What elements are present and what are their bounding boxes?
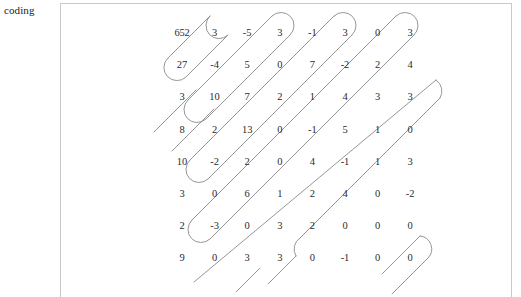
grid-cell-value: 0 xyxy=(277,157,282,168)
grid-cell-value: 0 xyxy=(212,189,217,200)
grid-cell-value: -5 xyxy=(243,28,252,39)
grid-cell-value: 0 xyxy=(277,60,282,71)
grid-cell-value: 0 xyxy=(375,28,380,39)
grid-cell-value: 0 xyxy=(375,221,380,232)
grid-cell-value: 0 xyxy=(212,253,217,264)
screenshot-stage: coding xyxy=(0,0,521,297)
grid-cell-value: 4 xyxy=(310,157,315,168)
grid-cell-value: 3 xyxy=(277,221,282,232)
grid-cell-value: 0 xyxy=(375,253,380,264)
grid-cell-value: 1 xyxy=(310,92,315,103)
grid-cell-value: 5 xyxy=(342,124,347,135)
grid-cell-value: 2 xyxy=(245,157,250,168)
grid-cell-value: 2 xyxy=(277,92,282,103)
grid-cell-value: 0 xyxy=(310,253,315,264)
grid-cell-value: 3 xyxy=(245,253,250,264)
grid-cell-value: 3 xyxy=(277,253,282,264)
grid-cell-value: 3 xyxy=(277,28,282,39)
grid-cell-value: 2 xyxy=(179,221,184,232)
grid-cell-value: 2 xyxy=(310,189,315,200)
grid-cell-value: 3 xyxy=(408,92,413,103)
grid-cell-value: 0 xyxy=(408,124,413,135)
grid-cell-value: 1 xyxy=(277,189,282,200)
grid-cell-value: -1 xyxy=(308,28,317,39)
grid-cell-value: 3 xyxy=(375,92,380,103)
grid-cell-value: 1 xyxy=(375,157,380,168)
grid-cell-value: 0 xyxy=(342,221,347,232)
grid-cell-value: 3 xyxy=(179,92,184,103)
grid-cell-value: 10 xyxy=(209,92,220,103)
grid-cell-value: 8 xyxy=(179,124,184,135)
grid-cell-value: 0 xyxy=(408,221,413,232)
grid-cell-value: 3 xyxy=(179,189,184,200)
grid-cell-value: -2 xyxy=(406,189,415,200)
grid-cell-value: 5 xyxy=(245,60,250,71)
grid-cell-value: -2 xyxy=(210,157,219,168)
grid-cell-value: 2 xyxy=(310,221,315,232)
grid-cell-value: 9 xyxy=(179,253,184,264)
grid-cell-value: 6 xyxy=(245,189,250,200)
grid-cell-value: -1 xyxy=(341,253,350,264)
coding-label: coding xyxy=(4,4,35,16)
grid-cell-value: -3 xyxy=(210,221,219,232)
grid-cell-value: 4 xyxy=(342,189,347,200)
grid-cell-value: 2 xyxy=(375,60,380,71)
grid-cell-value: 4 xyxy=(342,92,347,103)
grid-cell-value: 652 xyxy=(174,28,189,39)
grid-cell-value: 0 xyxy=(277,124,282,135)
grid-cell-value: 3 xyxy=(212,28,217,39)
grid-cell-value: 3 xyxy=(408,157,413,168)
grid-cell-value: 7 xyxy=(245,92,250,103)
grid-cell-value: -4 xyxy=(210,60,219,71)
grid-cell-value: 27 xyxy=(177,60,188,71)
grid-cell-value: 1 xyxy=(375,124,380,135)
grid-cell-value: 10 xyxy=(177,157,188,168)
grid-cell-value: 0 xyxy=(408,253,413,264)
grid-cell-value: 3 xyxy=(342,28,347,39)
grid-cell-value: 2 xyxy=(212,124,217,135)
grid-cell-value: 3 xyxy=(408,28,413,39)
grid-cell-value: 0 xyxy=(375,189,380,200)
grid-cell-value: -1 xyxy=(341,157,350,168)
diagram-panel xyxy=(60,3,512,297)
grid-cell-value: 4 xyxy=(408,60,413,71)
grid-cell-value: 7 xyxy=(310,60,315,71)
grid-cell-value: 13 xyxy=(242,124,253,135)
grid-cell-value: -1 xyxy=(308,124,317,135)
grid-cell-value: -2 xyxy=(341,60,350,71)
grid-cell-value: 0 xyxy=(245,221,250,232)
